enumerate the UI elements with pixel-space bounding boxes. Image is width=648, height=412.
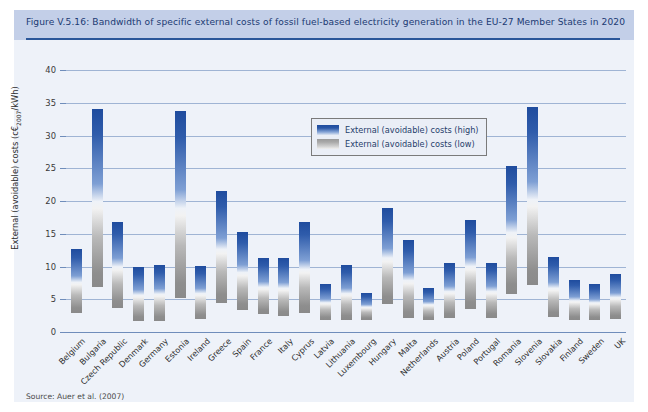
y-tick-label-35: 35: [22, 98, 56, 108]
y-tick-mark-5: [60, 299, 66, 300]
gridline-35: [66, 103, 626, 104]
y-axis-title: External (avoidable) costs (c€2007/kWh): [10, 86, 22, 249]
bar-finland: [569, 280, 580, 320]
y-tick-label-40: 40: [22, 65, 56, 75]
chart-legend: External (avoidable) costs (high) Extern…: [311, 118, 487, 156]
bar-poland: [465, 220, 476, 309]
bar-slovenia: [527, 107, 538, 285]
y-tick-mark-15: [60, 234, 66, 235]
x-axis-label-france: France: [248, 336, 274, 362]
bar-uk: [610, 274, 621, 319]
bar-france: [258, 258, 269, 314]
chart-plot: 0510152025303540 BelgiumBulgariaCzech Re…: [66, 70, 626, 332]
bar-slovakia: [548, 257, 559, 317]
bar-germany: [154, 265, 165, 321]
legend-item-high: External (avoidable) costs (high): [317, 123, 479, 137]
bar-sweden: [589, 284, 600, 320]
legend-label-high: External (avoidable) costs (high): [345, 125, 479, 135]
bar-ireland: [195, 266, 206, 319]
y-axis-title-main: External (avoidable) costs (c€: [10, 126, 20, 250]
bar-denmark: [133, 267, 144, 321]
bar-portugal: [486, 263, 497, 318]
figure-title: Figure V.5.16: Bandwidth of specific ext…: [26, 17, 626, 27]
y-tick-label-0: 0: [22, 327, 56, 337]
plot-area-wrapper: External (avoidable) costs (c€2007/kWh) …: [14, 40, 634, 402]
bar-spain: [237, 232, 248, 309]
y-tick-mark-10: [60, 267, 66, 268]
figure-source: Source: Auer et al. (2007): [26, 392, 124, 401]
figure-title-bar: Figure V.5.16: Bandwidth of specific ext…: [14, 10, 634, 40]
bar-austria: [444, 263, 455, 319]
bar-latvia: [320, 284, 331, 321]
legend-label-low: External (avoidable) costs (low): [345, 139, 475, 149]
bar-romania: [506, 166, 517, 294]
y-tick-mark-35: [60, 103, 66, 104]
y-axis-title-subscript: 2007: [15, 111, 22, 126]
y-tick-label-20: 20: [22, 196, 56, 206]
y-tick-mark-30: [60, 136, 66, 137]
y-axis-title-tail: /kWh): [10, 86, 20, 110]
gridline-25: [66, 168, 626, 169]
gridline-15: [66, 234, 626, 235]
bar-lithuania: [341, 265, 352, 320]
x-axis-label-uk: UK: [612, 336, 627, 351]
bar-bulgaria: [92, 109, 103, 287]
y-tick-label-10: 10: [22, 262, 56, 272]
y-tick-label-5: 5: [22, 294, 56, 304]
y-tick-mark-40: [60, 70, 66, 71]
bar-luxembourg: [361, 293, 372, 320]
bar-estonia: [175, 111, 186, 298]
bar-italy: [278, 258, 289, 316]
bar-malta: [403, 240, 414, 318]
bar-netherlands: [423, 288, 434, 319]
y-tick-mark-25: [60, 168, 66, 169]
y-tick-label-30: 30: [22, 131, 56, 141]
y-tick-mark-0: [60, 332, 66, 333]
bar-hungary: [382, 208, 393, 304]
gridline-20: [66, 201, 626, 202]
y-tick-label-15: 15: [22, 229, 56, 239]
figure-card: Figure V.5.16: Bandwidth of specific ext…: [14, 10, 634, 402]
y-tick-label-25: 25: [22, 163, 56, 173]
bar-belgium: [71, 249, 82, 313]
legend-item-low: External (avoidable) costs (low): [317, 137, 479, 151]
legend-swatch-low-icon: [317, 139, 339, 149]
gridline-0: [66, 332, 626, 333]
gridline-40: [66, 70, 626, 71]
legend-swatch-high-icon: [317, 125, 339, 135]
bar-greece: [216, 191, 227, 304]
y-tick-mark-20: [60, 201, 66, 202]
bar-czech-republic: [112, 222, 123, 308]
bar-cyprus: [299, 222, 310, 313]
